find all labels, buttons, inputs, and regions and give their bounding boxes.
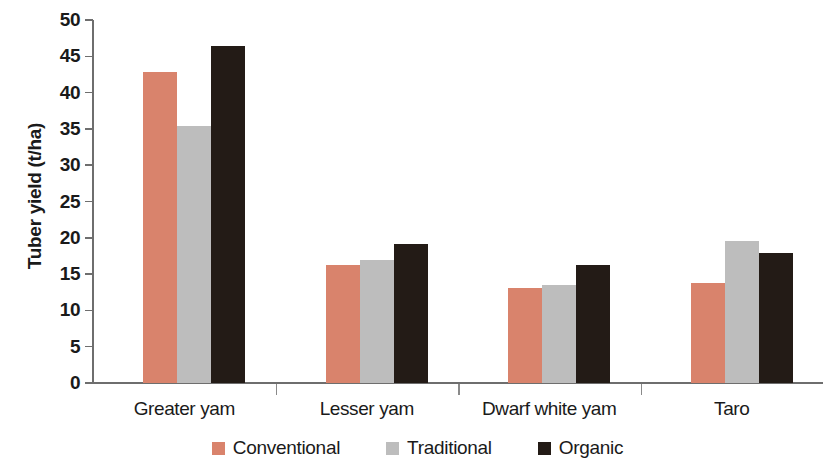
x-axis-separator-tick (641, 384, 643, 395)
bar-dwarf-white-yam-organic (576, 265, 610, 383)
y-axis-tick-label: 35 (38, 118, 80, 140)
x-axis-category-label: Lesser yam (276, 398, 459, 420)
legend-label: Traditional (407, 437, 492, 459)
y-axis-tick-label: 45 (38, 45, 80, 67)
plot-area (93, 20, 823, 383)
chart-legend: ConventionalTraditionalOrganic (0, 437, 835, 459)
legend-swatch-icon (212, 442, 225, 455)
bar-chart: Tuber yield (t/ha) 05101520253035404550 … (0, 0, 835, 468)
bar-lesser-yam-conventional (326, 265, 360, 383)
bar-greater-yam-conventional (143, 72, 177, 383)
y-axis-tick-label: 40 (38, 82, 80, 104)
bar-greater-yam-traditional (177, 126, 211, 383)
x-axis-category-label: Dwarf white yam (458, 398, 641, 420)
y-axis-tick-label: 0 (38, 372, 80, 394)
bar-taro-conventional (691, 283, 725, 383)
legend-swatch-icon (386, 442, 399, 455)
bar-taro-traditional (725, 241, 759, 383)
bar-greater-yam-organic (211, 46, 245, 383)
x-axis-separator-tick (458, 384, 460, 395)
y-axis-tick-label: 30 (38, 154, 80, 176)
legend-label: Conventional (233, 437, 340, 459)
x-axis-category-label: Taro (641, 398, 824, 420)
legend-item-traditional: Traditional (386, 437, 492, 459)
y-axis-tick-label: 50 (38, 9, 80, 31)
bar-taro-organic (759, 253, 793, 383)
bar-lesser-yam-traditional (360, 260, 394, 383)
legend-item-organic: Organic (538, 437, 623, 459)
legend-swatch-icon (538, 442, 551, 455)
y-axis-tick-label: 10 (38, 299, 80, 321)
bar-lesser-yam-organic (394, 244, 428, 383)
legend-item-conventional: Conventional (212, 437, 340, 459)
y-axis-tick-label: 15 (38, 263, 80, 285)
x-axis-category-label: Greater yam (93, 398, 276, 420)
legend-label: Organic (559, 437, 623, 459)
bar-dwarf-white-yam-conventional (508, 288, 542, 383)
y-axis-tick-label: 5 (38, 336, 80, 358)
x-axis-separator-tick (276, 384, 278, 395)
bar-dwarf-white-yam-traditional (542, 285, 576, 383)
y-axis-tick-label: 25 (38, 191, 80, 213)
y-axis-tick-label: 20 (38, 227, 80, 249)
